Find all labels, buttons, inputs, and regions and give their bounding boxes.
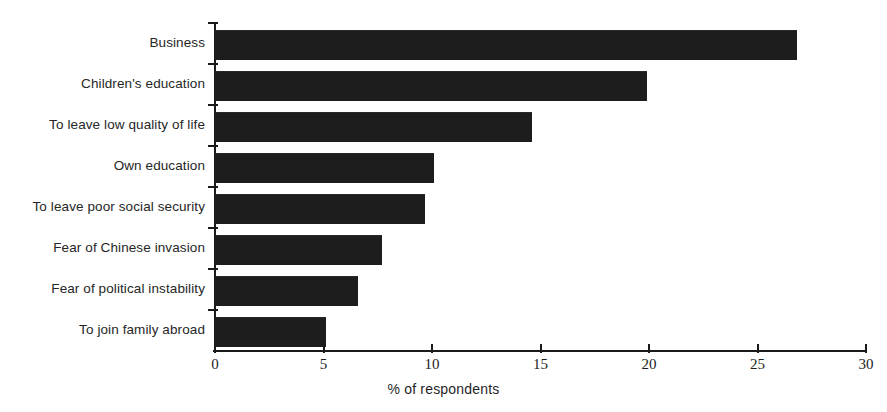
category-label: Fear of Chinese invasion — [0, 240, 205, 255]
x-axis-title: % of respondents — [0, 381, 887, 397]
bar-row — [215, 229, 866, 271]
bar — [215, 153, 434, 183]
bar — [215, 235, 382, 265]
bar — [215, 71, 647, 101]
category-label: To join family abroad — [0, 322, 205, 337]
y-tick — [208, 227, 218, 229]
x-tick — [431, 344, 433, 353]
bar-chart: · 051015202530 % of respondents Business… — [0, 0, 887, 412]
y-tick — [208, 309, 218, 311]
bar — [215, 317, 326, 347]
category-label: Children's education — [0, 76, 205, 91]
x-tick-label: 0 — [195, 356, 235, 373]
x-tick-label: 15 — [521, 356, 561, 373]
x-tick — [648, 344, 650, 353]
category-label: To leave low quality of life — [0, 117, 205, 132]
bar — [215, 194, 425, 224]
bar-row — [215, 147, 866, 189]
bar — [215, 276, 358, 306]
x-tick-label: 10 — [412, 356, 452, 373]
bar-row — [215, 24, 866, 66]
category-label: To leave poor social security — [0, 199, 205, 214]
x-tick — [323, 344, 325, 353]
y-tick — [208, 104, 218, 106]
x-tick — [757, 344, 759, 353]
y-tick — [208, 22, 218, 24]
x-tick — [214, 344, 216, 353]
bar-row — [215, 65, 866, 107]
y-tick — [208, 186, 218, 188]
x-tick-label: 20 — [629, 356, 669, 373]
bar — [215, 30, 797, 60]
plot-area — [215, 24, 866, 351]
bar — [215, 112, 532, 142]
x-tick — [865, 344, 867, 353]
x-tick — [540, 344, 542, 353]
chart-title-remnant: · — [150, 0, 570, 5]
bar-row — [215, 188, 866, 230]
x-tick-label: 25 — [738, 356, 778, 373]
y-tick — [208, 268, 218, 270]
category-label: Business — [0, 35, 205, 50]
x-tick-label: 5 — [304, 356, 344, 373]
category-label: Fear of political instability — [0, 281, 205, 296]
bar-row — [215, 270, 866, 312]
y-tick — [208, 145, 218, 147]
x-tick-label: 30 — [846, 356, 886, 373]
category-label: Own education — [0, 158, 205, 173]
y-tick — [208, 63, 218, 65]
bar-row — [215, 106, 866, 148]
